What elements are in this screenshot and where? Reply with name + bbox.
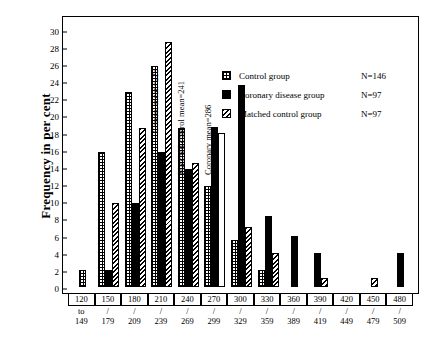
bar-matched [218, 133, 225, 287]
y-axis-tick-label: 10 [33, 198, 63, 208]
legend-swatch-matched-icon [222, 109, 231, 118]
x-axis-label: 300/329 [227, 294, 254, 327]
x-label-sep: / [360, 306, 387, 317]
chart-legend: Control group N=146 Coronary disease gro… [222, 66, 401, 123]
x-label-sep: / [386, 306, 413, 317]
x-axis-label: 390/419 [307, 294, 334, 327]
y-axis-tick-mark [63, 83, 67, 84]
x-label-bottom: 359 [254, 316, 281, 327]
bar-matched [272, 253, 279, 287]
legend-item-matched: Matched control group N=97 [222, 104, 401, 123]
y-axis-tick-label: 2 [33, 267, 63, 277]
plot-canvas: 024681012141618202224262830Control mean=… [63, 17, 418, 293]
plot-area: 024681012141618202224262830Control mean=… [62, 16, 419, 294]
bar-group [149, 21, 176, 287]
y-axis-tick-label: 0 [33, 284, 63, 294]
legend-count-coronary: N=97 [361, 90, 401, 100]
bar-control [231, 240, 238, 287]
bar-group [361, 21, 388, 287]
x-label-top: 180 [121, 294, 148, 306]
x-label-bottom: 389 [280, 316, 307, 327]
bar-coronary [265, 216, 272, 287]
y-axis-tick-mark [63, 186, 67, 187]
x-label-sep: / [121, 306, 148, 317]
x-axis-label: 120to149 [68, 294, 95, 327]
x-label-sep: / [254, 306, 281, 317]
x-label-top: 450 [360, 294, 387, 306]
bar-control [204, 186, 211, 287]
y-axis-tick-mark [63, 65, 67, 66]
mean-annotation: Control mean=225 [150, 69, 160, 133]
y-axis-tick-mark [63, 134, 67, 135]
x-axis-label: 210/239 [148, 294, 175, 327]
bar-group [308, 21, 335, 287]
y-axis-tick-label: 24 [33, 78, 63, 88]
mean-annotation: Matched control mean=241 [176, 81, 186, 175]
y-axis-tick-mark [63, 289, 67, 290]
x-axis-label: 330/359 [254, 294, 281, 327]
x-label-sep: / [333, 306, 360, 317]
y-axis-tick-label: 12 [33, 181, 63, 191]
x-label-top: 150 [95, 294, 122, 306]
x-axis-label: 420/449 [333, 294, 360, 327]
bar-coronary [185, 169, 192, 287]
x-axis-label: 240/269 [174, 294, 201, 327]
x-label-bottom: 149 [68, 316, 95, 327]
legend-swatch-control-icon [222, 71, 231, 80]
bar-matched [192, 163, 199, 287]
x-label-top: 360 [280, 294, 307, 306]
bar-group [387, 21, 414, 287]
x-label-sep: / [227, 306, 254, 317]
bar-group [334, 21, 361, 287]
x-label-bottom: 449 [333, 316, 360, 327]
x-label-bottom: 239 [148, 316, 175, 327]
y-axis-tick-label: 26 [33, 61, 63, 71]
bar-coronary [291, 236, 298, 287]
bar-control [125, 92, 132, 287]
bar-matched [371, 278, 378, 287]
legend-label-coronary: Coronary disease group [239, 90, 361, 100]
bar-matched [321, 278, 328, 287]
y-axis-tick-mark [63, 168, 67, 169]
legend-count-control: N=146 [361, 71, 401, 81]
x-label-top: 330 [254, 294, 281, 306]
bar-group [255, 21, 282, 287]
y-axis-tick-label: 22 [33, 95, 63, 105]
x-label-sep: / [95, 306, 122, 317]
legend-item-coronary: Coronary disease group N=97 [222, 85, 401, 104]
legend-item-control: Control group N=146 [222, 66, 401, 85]
y-axis-tick-label: 4 [33, 250, 63, 260]
y-axis-tick-label: 16 [33, 147, 63, 157]
bar-group [69, 21, 96, 287]
bar-matched [139, 128, 146, 287]
x-label-top: 300 [227, 294, 254, 306]
x-label-sep: to [68, 306, 95, 317]
x-label-top: 480 [386, 294, 413, 306]
y-axis-tick-label: 6 [33, 233, 63, 243]
bar-control [258, 270, 265, 287]
x-label-top: 120 [68, 294, 95, 306]
bar-coronary [397, 253, 404, 287]
y-axis-tick-mark [63, 203, 67, 204]
x-label-bottom: 329 [227, 316, 254, 327]
x-label-bottom: 179 [95, 316, 122, 327]
y-axis-tick-label: 30 [33, 27, 63, 37]
x-label-bottom: 479 [360, 316, 387, 327]
x-label-sep: / [307, 306, 334, 317]
y-axis-tick-mark [63, 237, 67, 238]
bar-coronary [314, 253, 321, 287]
x-label-sep: / [174, 306, 201, 317]
bar-group [122, 21, 149, 287]
bar-control [98, 152, 105, 287]
y-axis-tick-label: 14 [33, 164, 63, 174]
legend-swatch-coronary-icon [222, 90, 231, 99]
x-label-top: 420 [333, 294, 360, 306]
y-axis-tick-mark [63, 220, 67, 221]
y-axis-tick-label: 20 [33, 112, 63, 122]
y-axis-tick-mark [63, 151, 67, 152]
y-axis-tick-label: 8 [33, 215, 63, 225]
x-axis-labels: 120to149150/179180/209210/239240/269270/… [62, 294, 419, 343]
bar-coronary [105, 270, 112, 287]
x-label-top: 390 [307, 294, 334, 306]
x-label-top: 240 [174, 294, 201, 306]
